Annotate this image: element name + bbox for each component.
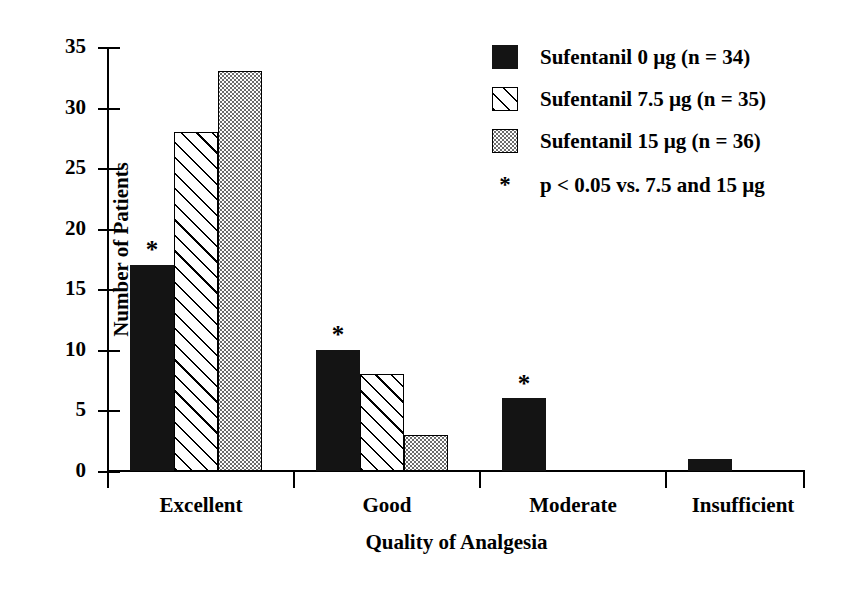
legend-significance-note: * p < 0.05 vs. 7.5 and 15 µg [492,164,842,206]
bar-insufficient-sufentanil-0 [688,459,732,471]
legend-entry-sufentanil-15: Sufentanil 15 µg (n = 36) [492,120,842,162]
y-tick-label-10: 10 [65,338,86,360]
y-axis-title: Number of Patients [109,70,134,430]
x-tick-label-moderate: Moderate [480,492,666,518]
significance-star-good: * [316,322,360,347]
legend-entry-sufentanil-0: Sufentanil 0 µg (n = 34) [492,36,842,78]
chart-figure: 35 30 25 20 15 10 5 0 [0,0,843,592]
x-tick-label-insufficient: Insufficient [650,492,836,518]
significance-star-moderate: * [502,371,546,396]
bar-good-sufentanil-0 [316,350,360,471]
legend-swatch-dots-icon [492,129,518,153]
bar-excellent-sufentanil-0 [130,265,174,471]
significance-star-excellent: * [130,237,174,262]
legend-label-sufentanil-0: Sufentanil 0 µg (n = 34) [540,45,750,70]
y-tick-label-20: 20 [65,217,86,239]
legend-swatch-hatch-icon [492,87,518,111]
bar-good-sufentanil-7_5 [360,374,404,471]
x-tick-2 [479,471,481,488]
legend: Sufentanil 0 µg (n = 34) Sufentanil 7.5 … [492,36,842,206]
x-axis-title: Quality of Analgesia [108,530,805,555]
y-tick-0: 0 [98,471,120,473]
y-tick-35: 35 [98,47,120,49]
bar-excellent-sufentanil-15 [218,71,262,471]
y-tick-label-5: 5 [76,398,87,420]
x-tick-label-excellent: Excellent [108,492,294,518]
y-tick-label-35: 35 [65,35,86,57]
asterisk-icon: * [492,172,518,198]
legend-note-text: p < 0.05 vs. 7.5 and 15 µg [540,173,765,198]
legend-label-sufentanil-15: Sufentanil 15 µg (n = 36) [540,129,761,154]
y-tick-label-15: 15 [65,277,86,299]
x-tick-label-good: Good [294,492,480,518]
legend-label-sufentanil-7_5: Sufentanil 7.5 µg (n = 35) [540,87,766,112]
x-tick-3 [665,471,667,488]
legend-swatch-solid-icon [492,45,518,69]
y-tick-label-0: 0 [76,459,87,481]
bar-moderate-sufentanil-0 [502,398,546,471]
legend-entry-sufentanil-7_5: Sufentanil 7.5 µg (n = 35) [492,78,842,120]
x-tick-0 [107,471,109,488]
y-tick-label-25: 25 [65,156,86,178]
bar-good-sufentanil-15 [404,435,448,471]
x-tick-4 [803,471,805,488]
x-tick-1 [293,471,295,488]
y-tick-label-30: 30 [65,96,86,118]
bar-excellent-sufentanil-7_5 [174,132,218,471]
